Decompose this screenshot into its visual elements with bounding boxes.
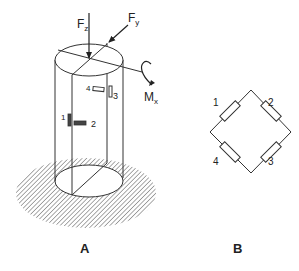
mx-moment-arrow-icon xyxy=(142,62,152,85)
fy-arrow xyxy=(109,25,128,42)
svg-text:2: 2 xyxy=(268,97,274,108)
diagram-canvas: Fz Fy Mx 4 3 1 2 A xyxy=(0,0,299,271)
resistor-3: 3 xyxy=(261,142,282,167)
svg-text:2: 2 xyxy=(91,119,96,129)
cylinder-base xyxy=(55,165,123,197)
gauge-2: 2 xyxy=(74,119,96,129)
fz-label: Fz xyxy=(77,17,88,33)
gauge-1: 1 xyxy=(61,113,71,126)
resistor-2: 2 xyxy=(261,97,282,121)
figure-a-label: A xyxy=(80,241,90,256)
figure-a: Fz Fy Mx 4 3 1 2 A xyxy=(16,11,158,256)
mx-label: Mx xyxy=(144,90,158,106)
resistor-1: 1 xyxy=(213,97,240,121)
gauge-3: 3 xyxy=(109,86,118,101)
fy-label: Fy xyxy=(128,11,139,27)
gauge-4: 4 xyxy=(86,84,104,93)
resistor-4: 4 xyxy=(213,142,240,167)
svg-text:1: 1 xyxy=(213,97,219,108)
svg-text:4: 4 xyxy=(213,156,219,167)
figure-b-bridge xyxy=(210,90,291,173)
svg-text:4: 4 xyxy=(86,84,91,93)
figure-b-label: B xyxy=(233,241,242,256)
svg-text:1: 1 xyxy=(61,113,66,122)
svg-text:3: 3 xyxy=(268,156,274,167)
svg-text:3: 3 xyxy=(113,91,118,101)
